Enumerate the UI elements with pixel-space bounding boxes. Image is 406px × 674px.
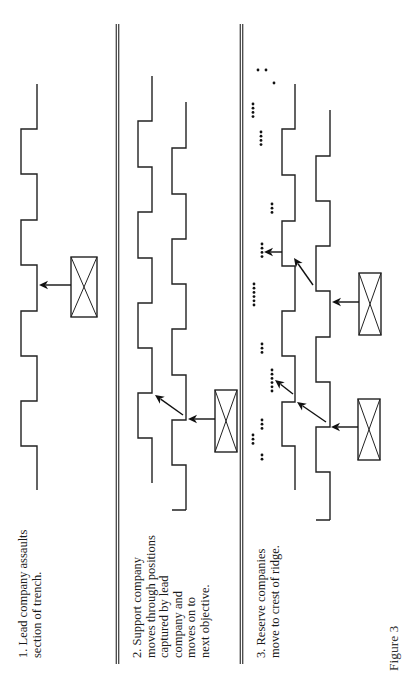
caption-panel-2: 2. Support company moves through positio… [131,535,212,658]
enemy-marker-icon [261,419,264,430]
caption-line: 3. Reserve companies [255,545,269,658]
arrow-icon [188,415,215,423]
caption-line: 1. Lead company assaults [17,530,31,658]
caption-line: company and [172,535,186,658]
arrow-icon [275,380,293,394]
enemy-marker-icon [261,243,264,258]
enemy-marker-icon [252,103,255,118]
trench-lines [21,76,330,520]
arrow-icon [332,298,359,306]
arrow-icon [331,423,358,431]
caption-line: moves on to [185,535,199,658]
trench-line [282,84,295,490]
company-units [71,257,381,460]
enemy-marker-icon [260,131,263,146]
enemy-marker-icon [271,203,274,214]
enemy-marker-icon [252,434,255,445]
enemy-marker-icon [261,454,264,461]
enemy-marker-icon [257,69,260,72]
trench-line [21,84,37,490]
arrow-icon [264,248,282,256]
caption-line: move to crest of ridge. [269,545,283,658]
caption-panel-1: 1. Lead company assaults section of tren… [17,530,44,658]
trench-line [316,110,330,520]
enemy-marker-icon [261,343,264,354]
arrow-icon [39,281,71,289]
caption-line: section of trench. [31,530,45,658]
infantry-unit-icon [358,399,380,460]
caption-panel-3: 3. Reserve companies move to crest of ri… [255,545,282,658]
arrow-icon [294,258,313,285]
enemy-marker-icon [271,369,274,393]
enemy-marker-icon [273,82,276,85]
arrow-icon [155,395,183,415]
movement-arrows [39,248,359,431]
trench-line [172,102,186,510]
caption-line: 2. Support company [131,535,145,658]
caption-line: moves through positions [145,535,159,658]
caption-line: next objective. [199,535,213,658]
enemy-marker-icon [265,69,268,72]
enemy-positions [252,69,276,461]
figure-label: Figure 3 [386,626,402,671]
infantry-unit-icon [215,390,237,452]
infantry-unit-icon [359,273,381,335]
infantry-unit-icon [71,257,97,317]
trench-line [138,76,152,483]
caption-line: captured by lead [158,535,172,658]
enemy-marker-icon [253,283,256,307]
arrow-icon [297,402,326,422]
